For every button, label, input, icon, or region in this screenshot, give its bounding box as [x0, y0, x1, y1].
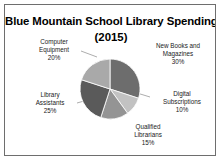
pie-chart: [5, 5, 215, 155]
pie-label-line1: New Books and: [156, 42, 200, 49]
chart-frame: Blue Mountain School Library Spending (2…: [4, 4, 216, 156]
pie-label-percent: 15%: [117, 139, 179, 147]
pie-label-line2: Assistants: [36, 99, 65, 106]
pie-label-line2: Equipment: [39, 46, 69, 53]
pie-label-new-books-and-magazines: New Books and Magazines 30%: [145, 42, 211, 67]
pie-label-percent: 20%: [23, 54, 85, 62]
pie-label-line2: Librarians: [134, 131, 162, 138]
pie-label-library-assistants: Library Assistants 25%: [19, 91, 81, 116]
pie-label-percent: 30%: [145, 58, 211, 66]
pie-label-percent: 10%: [151, 106, 213, 114]
pie-label-line2: Subscriptions: [163, 98, 201, 105]
pie-label-line1: Qualified: [136, 123, 161, 130]
pie-slices: [80, 59, 140, 119]
pie-label-line1: Library: [40, 91, 59, 98]
pie-label-digital-subscriptions: Digital Subscriptions 10%: [151, 90, 213, 115]
pie-label-line1: Computer: [40, 38, 68, 45]
pie-label-qualified-librarians: Qualified Librarians 15%: [117, 123, 179, 148]
pie-label-line1: Digital: [173, 90, 191, 97]
pie-label-line2: Magazines: [163, 50, 193, 57]
pie-label-computer-equipment: Computer Equipment 20%: [23, 38, 85, 63]
chart-canvas: Blue Mountain School Library Spending (2…: [5, 5, 215, 155]
pie-label-percent: 25%: [19, 107, 81, 115]
